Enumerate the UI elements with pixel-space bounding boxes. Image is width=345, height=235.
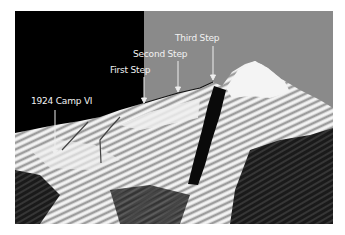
mountain-photo: 1924 Camp VI First Step Second Step Thir… — [15, 11, 333, 224]
label-1924-camp-vi: 1924 Camp VI — [31, 96, 92, 106]
label-first-step: First Step — [110, 65, 150, 75]
label-third-step: Third Step — [175, 33, 219, 43]
label-second-step: Second Step — [133, 49, 187, 59]
mountain-illustration — [15, 11, 333, 224]
